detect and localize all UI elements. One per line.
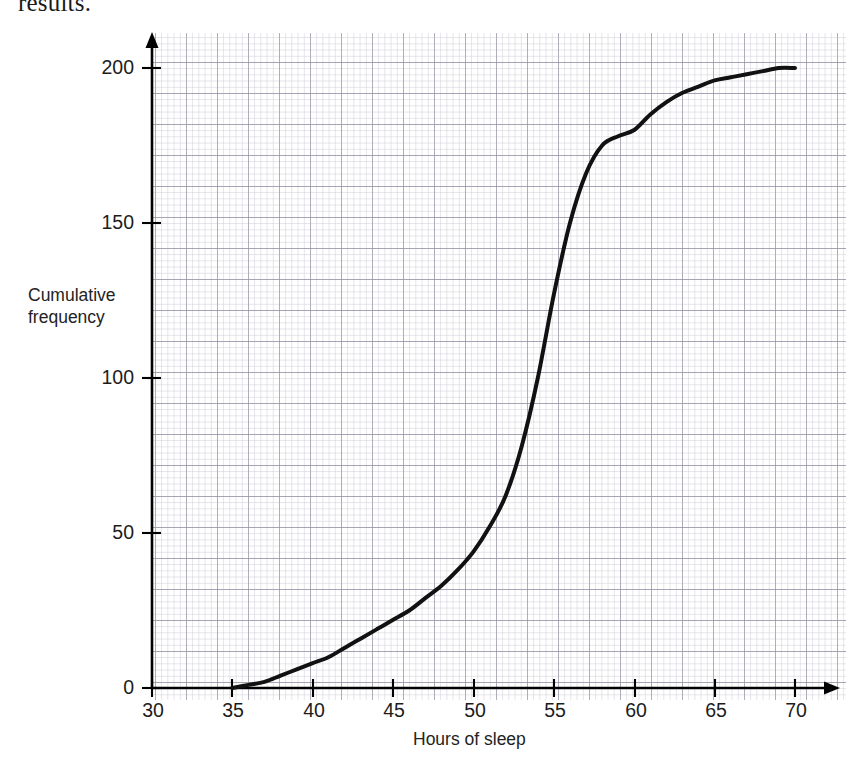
x-axis-label: Hours of sleep bbox=[413, 728, 526, 750]
y-axis-label-line-2: frequency bbox=[28, 306, 116, 328]
y-axis-label: Cumulative frequency bbox=[28, 284, 116, 329]
y-tick-label-0: 0 bbox=[96, 676, 134, 699]
y-tick-label-150: 150 bbox=[84, 211, 134, 234]
x-tick-label-70: 70 bbox=[781, 699, 811, 722]
x-tick-label-60: 60 bbox=[621, 699, 651, 722]
y-axis-label-line-1: Cumulative bbox=[28, 284, 116, 306]
grid-background bbox=[152, 33, 846, 700]
x-tick-label-45: 45 bbox=[379, 699, 409, 722]
x-tick-label-40: 40 bbox=[299, 699, 329, 722]
y-tick-label-200: 200 bbox=[84, 56, 134, 79]
y-tick-label-50: 50 bbox=[96, 521, 134, 544]
y-tick-label-100: 100 bbox=[84, 366, 134, 389]
x-tick-label-55: 55 bbox=[540, 699, 570, 722]
x-tick-label-65: 65 bbox=[701, 699, 731, 722]
chart-page: results. bbox=[0, 0, 851, 762]
x-tick-label-35: 35 bbox=[218, 699, 248, 722]
x-tick-label-30: 30 bbox=[138, 699, 168, 722]
x-tick-label-50: 50 bbox=[460, 699, 490, 722]
